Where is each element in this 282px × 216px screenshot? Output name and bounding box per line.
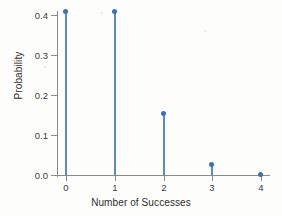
x-axis-tick-label: 4 [251,183,271,193]
x-axis-tick-label: 2 [154,183,174,193]
data-point-marker [112,9,117,14]
data-point-marker [209,162,214,167]
x-axis-tick-label: 0 [56,183,76,193]
stem-line [114,11,116,175]
x-axis-tick [115,176,116,181]
x-axis-tick [212,176,213,181]
y-axis-tick [51,135,57,136]
x-axis-tick [66,176,67,181]
probability-distribution-chart: 0.4 0.3 0.2 0.1 0.0 0 1 2 3 4 Number of … [0,0,282,216]
scan-speckle [204,30,206,32]
y-axis-tick-label: 0.0 [18,171,48,181]
stem-line [163,113,165,175]
x-axis-tick [261,176,262,181]
x-axis-tick [164,176,165,181]
stem-line [65,11,67,175]
data-point-marker [258,172,263,177]
y-axis-tick [51,95,57,96]
scan-speckle [101,12,103,14]
x-axis-tick-label: 3 [202,183,222,193]
scan-speckle [44,66,46,68]
y-axis-line [57,11,58,177]
x-axis-tick-label: 1 [105,183,125,193]
data-point-marker [63,9,68,14]
x-axis-title: Number of Successes [0,197,282,208]
y-axis-tick [51,55,57,56]
data-point-marker [161,111,166,116]
y-axis-tick [51,15,57,16]
y-axis-tick [51,175,57,176]
y-axis-title: Probability [13,16,24,136]
